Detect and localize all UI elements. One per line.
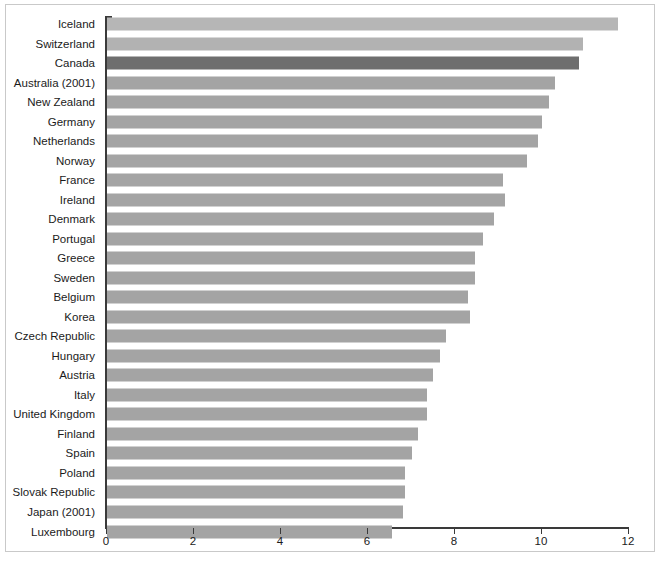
category-label: Italy	[0, 389, 100, 401]
bar	[107, 486, 405, 499]
x-axis-tick	[628, 528, 629, 534]
x-axis-tick	[193, 528, 194, 534]
category-label: Sweden	[0, 272, 100, 284]
bar	[107, 388, 427, 401]
bar	[107, 525, 392, 538]
category-label: Iceland	[0, 18, 100, 30]
x-axis-tick-label: 12	[622, 535, 635, 547]
category-label: Canada	[0, 57, 100, 69]
bar-highlighted	[107, 57, 579, 70]
category-label: Korea	[0, 311, 100, 323]
x-axis-tick-label: 6	[364, 535, 370, 547]
bar	[107, 193, 505, 206]
category-label: Poland	[0, 467, 100, 479]
category-label: Luxembourg	[0, 526, 100, 538]
bar	[107, 232, 483, 245]
bar	[107, 96, 549, 109]
category-label: Netherlands	[0, 135, 100, 147]
bar	[107, 115, 542, 128]
category-label: Switzerland	[0, 38, 100, 50]
category-label: Slovak Republic	[0, 486, 100, 498]
bar	[107, 154, 527, 167]
x-axis-tick	[367, 528, 368, 534]
x-axis-tick-label: 4	[277, 535, 283, 547]
bar	[107, 291, 468, 304]
x-axis-tick	[541, 528, 542, 534]
bar	[107, 408, 427, 421]
bar	[107, 252, 475, 265]
category-label: Belgium	[0, 291, 100, 303]
bar	[107, 271, 475, 284]
category-label: Norway	[0, 155, 100, 167]
bar	[107, 506, 403, 519]
category-label: Denmark	[0, 213, 100, 225]
bar	[107, 466, 405, 479]
category-label: Greece	[0, 252, 100, 264]
bar	[107, 37, 583, 50]
bar	[107, 310, 470, 323]
bar-chart-plot-area: IcelandSwitzerlandCanadaAustralia (2001)…	[0, 0, 662, 561]
category-label: Japan (2001)	[0, 506, 100, 518]
category-label: Germany	[0, 116, 100, 128]
bar	[107, 174, 503, 187]
category-label: Hungary	[0, 350, 100, 362]
category-label: Portugal	[0, 233, 100, 245]
category-label: Australia (2001)	[0, 77, 100, 89]
category-label: Ireland	[0, 194, 100, 206]
bar	[107, 427, 418, 440]
bar	[107, 369, 433, 382]
x-axis-tick	[106, 528, 107, 534]
x-axis-tick	[280, 528, 281, 534]
bar	[107, 447, 412, 460]
x-axis-tick	[454, 528, 455, 534]
bar	[107, 18, 618, 31]
category-label: France	[0, 174, 100, 186]
category-label: Finland	[0, 428, 100, 440]
bar	[107, 213, 494, 226]
x-axis-tick-label: 10	[535, 535, 548, 547]
bar	[107, 330, 446, 343]
x-axis-tick-label: 2	[190, 535, 196, 547]
category-label: New Zealand	[0, 96, 100, 108]
bar	[107, 135, 538, 148]
x-axis-tick-label: 0	[103, 535, 109, 547]
bar	[107, 349, 440, 362]
bar	[107, 76, 555, 89]
category-label: Austria	[0, 369, 100, 381]
category-label: Czech Republic	[0, 330, 100, 342]
category-label: United Kingdom	[0, 408, 100, 420]
x-axis-tick-label: 8	[451, 535, 457, 547]
category-label: Spain	[0, 447, 100, 459]
